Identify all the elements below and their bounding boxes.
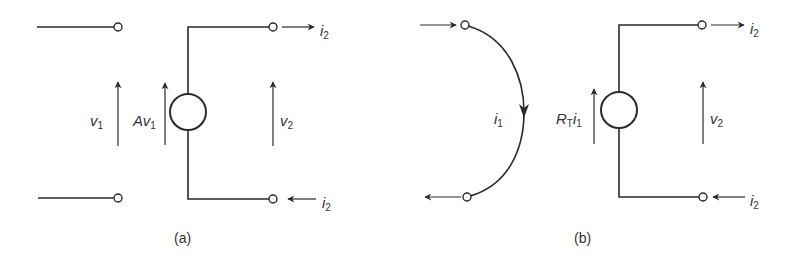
source-bottom-wire: [188, 130, 270, 199]
output-top-terminal: [698, 21, 706, 29]
diagram-a-vcvs: v1 Av1 i2 i2 v2 (a): [37, 22, 331, 246]
dependent-voltage-source-icon: [601, 92, 637, 128]
input-top-terminal: [461, 21, 469, 29]
output-top-terminal: [269, 23, 277, 31]
caption-a: (a): [174, 230, 191, 246]
i2-bottom-label: i2: [322, 194, 331, 213]
input-bottom-terminal: [463, 193, 471, 201]
two-port-diagrams: v1 Av1 i2 i2 v2 (a) i1 RTi1: [0, 0, 793, 263]
i2-top-label: i2: [320, 22, 329, 41]
v2-label: v2: [710, 110, 724, 129]
source-top-wire: [619, 25, 699, 92]
i2-top-label: i2: [750, 20, 759, 39]
i2-bottom-label: i2: [750, 192, 759, 211]
input-top-terminal: [114, 23, 122, 31]
input-bottom-terminal: [114, 194, 122, 202]
av1-label: Av1: [132, 112, 156, 131]
output-bottom-terminal: [269, 195, 277, 203]
i1-label: i1: [494, 110, 503, 129]
caption-b: (b): [574, 230, 591, 246]
rti1-label: RTi1: [556, 110, 582, 129]
source-top-wire: [188, 27, 270, 94]
output-bottom-terminal: [699, 193, 707, 201]
v1-label: v1: [90, 112, 104, 131]
source-bottom-wire: [619, 128, 699, 197]
diagram-b-ccvs: i1 RTi1 i2 i2 v2 (b): [420, 20, 759, 246]
v2-label: v2: [280, 112, 294, 131]
dependent-voltage-source-icon: [170, 94, 206, 130]
